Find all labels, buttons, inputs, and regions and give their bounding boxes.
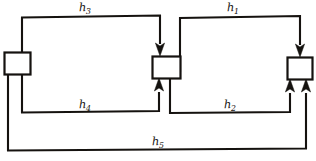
label-h3-subscript: 3 xyxy=(86,6,91,15)
path-h5-arrowhead xyxy=(301,79,310,92)
path-h3-arrowhead xyxy=(155,43,164,56)
label-h2-subscript: 2 xyxy=(231,103,236,112)
path-h4 xyxy=(22,62,164,113)
label-h5: h5 xyxy=(152,136,164,150)
left-block[interactable] xyxy=(5,53,31,75)
path-h1 xyxy=(180,16,305,72)
path-h3-wire xyxy=(22,16,160,71)
block-diagram: h3 h1 h4 h2 h5 xyxy=(0,0,316,161)
label-h1: h1 xyxy=(227,2,239,16)
label-h1-subscript: 1 xyxy=(234,6,239,15)
label-h3: h3 xyxy=(79,2,91,16)
path-h1-wire xyxy=(180,16,300,72)
label-h5-subscript: 5 xyxy=(159,140,164,149)
path-h1-arrowhead xyxy=(295,44,304,57)
right-block[interactable] xyxy=(288,58,313,80)
path-h3 xyxy=(22,16,165,71)
label-h4: h4 xyxy=(79,99,91,113)
middle-block[interactable] xyxy=(153,57,181,79)
label-h4-subscript: 4 xyxy=(86,103,91,112)
label-h2: h2 xyxy=(224,99,236,113)
path-h2-arrowhead xyxy=(285,79,294,92)
path-h4-arrowhead xyxy=(154,78,163,91)
